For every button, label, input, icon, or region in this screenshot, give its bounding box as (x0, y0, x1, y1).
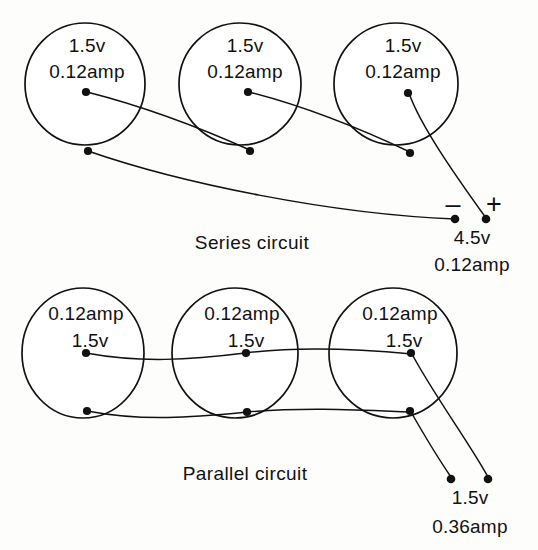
parallel-cell-2-voltage-label: 1.5v (228, 330, 265, 351)
circuit-canvas: 1.5v 0.12amp 1.5v 0.12amp 1.5v 0.12amp –… (0, 0, 538, 550)
parallel-output-voltage-label: 1.5v (452, 487, 489, 508)
series-output-current-label: 0.12amp (434, 254, 509, 275)
parallel-output-left-lead-dot (447, 475, 456, 484)
series-cell-3-voltage-label: 1.5v (385, 35, 422, 56)
series-cell-2-bottom-terminal-dot (246, 147, 254, 155)
series-positive-polarity-sign: + (486, 189, 502, 219)
series-cell-1-current-label: 0.12amp (49, 61, 124, 82)
circuit-diagram-figure: 1.5v 0.12amp 1.5v 0.12amp 1.5v 0.12amp –… (0, 0, 538, 550)
series-cell-3-current-label: 0.12amp (365, 61, 440, 82)
parallel-circuit-group: 0.12amp 1.5v 0.12amp 1.5v 0.12amp 1.5v 1… (22, 288, 508, 537)
parallel-cell-2-current-label: 0.12amp (204, 303, 279, 324)
parallel-cell-3-current-label: 0.12amp (362, 303, 437, 324)
series-negative-polarity-sign: – (445, 189, 460, 219)
parallel-cell-3-bottom-terminal-dot (406, 407, 414, 415)
series-cell-1-voltage-label: 1.5v (69, 35, 106, 56)
series-cell-3-bottom-terminal-dot (406, 149, 414, 157)
series-circuit-caption: Series circuit (195, 232, 310, 253)
series-wire-cell1-to-negative-terminal (88, 151, 455, 219)
series-cell-3-top-terminal-dot (404, 89, 412, 97)
series-cell-2-top-terminal-dot (244, 88, 252, 96)
series-cell-1-top-terminal-dot (82, 88, 90, 96)
parallel-cell-1-bottom-terminal-dot (83, 407, 91, 415)
series-output-voltage-label: 4.5v (454, 227, 491, 248)
series-cell-1-bottom-terminal-dot (84, 147, 92, 155)
parallel-circuit-caption: Parallel circuit (183, 463, 308, 484)
parallel-output-wire-from-bottom-bus (411, 412, 451, 477)
series-cell-2-voltage-label: 1.5v (227, 35, 264, 56)
parallel-output-current-label: 0.36amp (432, 516, 507, 537)
parallel-output-right-lead-dot (484, 475, 493, 484)
series-cell-2-current-label: 0.12amp (207, 61, 282, 82)
parallel-cell-3-voltage-label: 1.5v (386, 330, 423, 351)
series-circuit-group: 1.5v 0.12amp 1.5v 0.12amp 1.5v 0.12amp –… (25, 23, 510, 275)
parallel-cell-1-voltage-label: 1.5v (72, 330, 109, 351)
parallel-cell-2-bottom-terminal-dot (243, 408, 251, 416)
parallel-cell-1-current-label: 0.12amp (48, 303, 123, 324)
